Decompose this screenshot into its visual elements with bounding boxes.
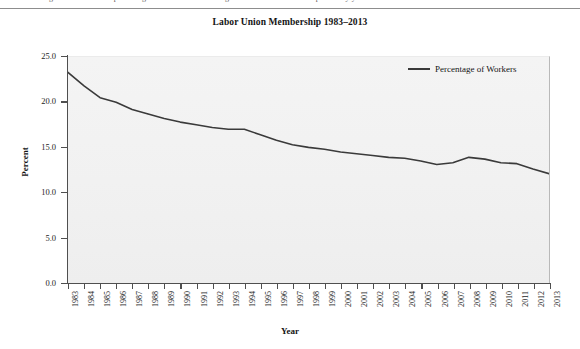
x-axis-tick-label: 1984	[87, 291, 96, 307]
x-axis-tick-label: 2008	[473, 291, 482, 307]
x-axis-tick-label: 2000	[344, 291, 353, 307]
x-axis-title: Year	[0, 326, 580, 336]
x-axis-tick-label: 1998	[312, 291, 321, 307]
x-axis-tick	[164, 284, 165, 289]
y-axis-spine	[67, 55, 68, 284]
x-axis-tick-label: 1987	[135, 291, 144, 307]
page-running-head: Figure 5.3 shows the percentage of worke…	[0, 0, 580, 9]
x-axis-tick-label: 1989	[167, 291, 176, 307]
x-axis-tick	[277, 284, 278, 289]
x-axis-tick-label: 2010	[505, 291, 514, 307]
legend-line-swatch	[408, 68, 430, 70]
x-axis-tick	[341, 284, 342, 289]
x-axis-tick-label: 1994	[248, 291, 257, 307]
x-axis-tick	[534, 284, 535, 289]
y-axis-tick	[61, 238, 67, 239]
x-axis-tick-label: 2012	[537, 291, 546, 307]
x-axis-tick	[213, 284, 214, 289]
x-axis-tick-label: 2002	[376, 291, 385, 307]
x-axis-tick	[180, 284, 181, 289]
x-axis-tick-label: 1983	[71, 291, 80, 307]
y-axis-tick-label: 20.0	[0, 96, 56, 106]
legend-item-label: Percentage of Workers	[435, 64, 517, 74]
x-axis-tick-label: 1996	[280, 291, 289, 307]
x-axis-tick	[261, 284, 262, 289]
x-axis-tick	[470, 284, 471, 289]
x-axis-tick	[373, 284, 374, 289]
x-axis-tick-label: 1999	[328, 291, 337, 307]
x-axis-tick	[486, 284, 487, 289]
x-axis-tick	[518, 284, 519, 289]
x-axis-tick-label: 2011	[521, 291, 530, 307]
chart-legend: Percentage of Workers	[408, 64, 517, 74]
x-axis-tick	[502, 284, 503, 289]
x-axis-tick	[309, 284, 310, 289]
x-axis-tick-label: 2004	[408, 291, 417, 307]
y-axis-tick	[61, 101, 67, 102]
x-axis-tick	[438, 284, 439, 289]
y-axis-tick-label: 25.0	[0, 51, 56, 61]
y-axis-tick-label: 5.0	[0, 233, 56, 243]
running-head-text: Figure 5.3 shows the percentage of worke…	[42, 0, 372, 2]
x-axis-tick-label: 1992	[216, 291, 225, 307]
x-axis-tick	[454, 284, 455, 289]
chart-figure: Labor Union Membership 1983–2013 25.020.…	[0, 9, 580, 349]
x-axis-tick	[148, 284, 149, 289]
x-axis-tick	[421, 284, 422, 289]
y-axis-title: Percent	[20, 132, 30, 192]
x-axis-tick-label: 2005	[424, 291, 433, 307]
x-axis-tick	[357, 284, 358, 289]
x-axis-tick-label: 2001	[360, 291, 369, 307]
x-axis-tick-label: 2009	[489, 291, 498, 307]
x-axis-tick	[293, 284, 294, 289]
x-axis-tick-label: 1986	[119, 291, 128, 307]
series-line-percentage-of-workers	[68, 72, 549, 173]
x-axis-tick	[132, 284, 133, 289]
x-axis-tick-label: 2003	[392, 291, 401, 307]
x-axis-tick	[197, 284, 198, 289]
x-axis-tick-label: 1990	[183, 291, 192, 307]
y-axis-tick	[61, 192, 67, 193]
x-axis-tick-label: 2013	[553, 291, 562, 307]
x-axis-tick	[84, 284, 85, 289]
x-axis-tick	[245, 284, 246, 289]
x-axis-tick-label: 1985	[103, 291, 112, 307]
x-axis-tick-label: 1997	[296, 291, 305, 307]
plot-area	[68, 56, 550, 283]
x-axis-tick-label: 2006	[441, 291, 450, 307]
x-axis-tick-label: 1995	[264, 291, 273, 307]
x-axis-tick	[550, 284, 551, 289]
x-axis-tick	[325, 284, 326, 289]
x-axis-tick-label: 1991	[200, 291, 209, 307]
y-axis-tick	[61, 147, 67, 148]
x-axis-tick	[405, 284, 406, 289]
x-axis-tick	[116, 284, 117, 289]
x-axis-tick	[229, 284, 230, 289]
x-axis-tick-label: 2007	[457, 291, 466, 307]
y-axis-tick	[61, 56, 67, 57]
chart-title: Labor Union Membership 1983–2013	[0, 17, 580, 27]
y-axis-tick	[61, 283, 67, 284]
x-axis-tick	[389, 284, 390, 289]
y-axis-tick-label: 0.0	[0, 278, 56, 288]
x-axis-tick	[100, 284, 101, 289]
x-axis-tick-label: 1993	[232, 291, 241, 307]
x-axis-tick	[68, 284, 69, 289]
x-axis-tick-label: 1988	[151, 291, 160, 307]
data-line-series	[68, 57, 549, 283]
